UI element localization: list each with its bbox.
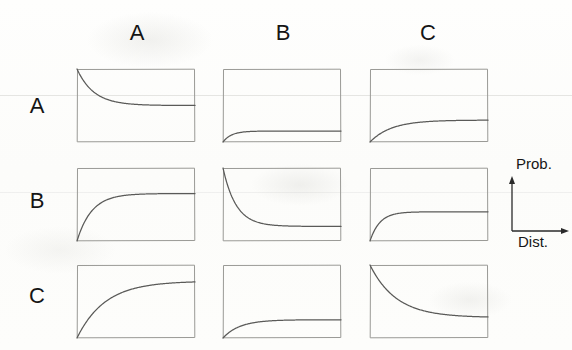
- curve: [370, 265, 488, 317]
- panel-frame: [223, 168, 341, 241]
- curve: [223, 168, 341, 226]
- panel-frame: [223, 265, 341, 338]
- panel-b-b: [222, 167, 342, 242]
- row-header-a: A: [22, 93, 52, 119]
- panel-frame: [370, 265, 488, 338]
- row-header-b: B: [22, 188, 52, 214]
- axis-key-y-label: Prob.: [516, 155, 552, 172]
- panel-frame: [77, 168, 195, 241]
- column-header-a: A: [117, 20, 157, 46]
- curve: [77, 194, 195, 241]
- panel-c-a: [76, 264, 196, 339]
- panel-frame: [370, 69, 488, 142]
- curve: [77, 282, 195, 338]
- curve: [77, 69, 195, 105]
- column-header-b: B: [263, 20, 303, 46]
- curve: [370, 212, 488, 241]
- column-header-c: C: [408, 20, 448, 46]
- panel-frame: [370, 168, 488, 241]
- panel-c-c: [369, 264, 489, 339]
- panel-frame: [77, 265, 195, 338]
- curve: [223, 131, 341, 142]
- panel-b-c: [369, 167, 489, 242]
- axis-key-arrows: [498, 175, 572, 235]
- axis-key-x-label: Dist.: [518, 233, 548, 250]
- panel-c-b: [222, 264, 342, 339]
- curve: [223, 320, 341, 338]
- panel-a-c: [369, 68, 489, 143]
- panel-b-a: [76, 167, 196, 242]
- row-header-c: C: [22, 283, 52, 309]
- curve: [370, 120, 488, 142]
- axis-key: Prob. Dist.: [498, 155, 572, 250]
- panel-a-b: [222, 68, 342, 143]
- panel-a-a: [76, 68, 196, 143]
